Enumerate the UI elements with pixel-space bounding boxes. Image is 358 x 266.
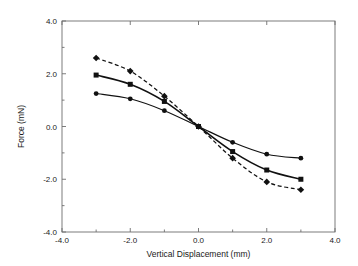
data-point-circle (128, 96, 133, 101)
x-tick-label: -4.0 (55, 236, 69, 245)
y-tick-label: -2.0 (43, 175, 57, 184)
data-point-square (162, 99, 167, 104)
data-point-circle (162, 108, 167, 113)
data-point-square (264, 168, 269, 173)
y-tick-label: 2.0 (46, 70, 58, 79)
y-tick-label: 4.0 (46, 17, 58, 26)
force-vs-displacement-chart: 4.02.00.0-2.0-4.0 -4.0-2.00.02.04.0 Vert… (0, 0, 358, 266)
x-tick-label: 0.0 (193, 236, 205, 245)
data-point-square (128, 82, 133, 87)
data-point-circle (196, 124, 201, 129)
data-point-circle (264, 152, 269, 157)
data-point-square (298, 177, 303, 182)
y-tick-label: 0.0 (46, 123, 58, 132)
y-axis-title: Force (mN) (16, 105, 26, 148)
x-tick-label: -2.0 (123, 236, 137, 245)
data-point-circle (230, 140, 235, 145)
x-tick-label: 2.0 (261, 236, 273, 245)
data-point-circle (298, 156, 303, 161)
chart-background (0, 0, 358, 266)
x-axis-title: Vertical Displacement (mm) (147, 249, 251, 259)
data-point-square (94, 73, 99, 78)
data-point-circle (94, 91, 99, 96)
data-point-square (230, 149, 235, 154)
x-tick-label: 4.0 (329, 236, 341, 245)
